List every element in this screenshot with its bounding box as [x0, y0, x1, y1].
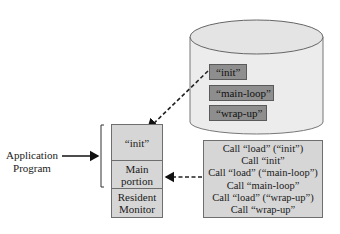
main-portion-line-2: portion — [121, 175, 153, 187]
application-label-line-1: Application — [4, 149, 60, 162]
main-portion-line-1: Main — [121, 163, 153, 175]
call-line: Call “load” (“main-loop”) — [204, 167, 322, 179]
memory-segment-resident-monitor: Resident Monitor — [111, 188, 163, 218]
disk-module-init: “init” — [209, 64, 247, 80]
disk-module-wrap-up: “wrap-up” — [209, 105, 267, 121]
call-line: Call “load” (“init”) — [204, 143, 322, 155]
resident-monitor-line-1: Resident — [118, 191, 157, 203]
disk-module-main-loop: “main-loop” — [209, 85, 274, 101]
application-label-line-2: Program — [4, 162, 60, 175]
disk-module-init-label: “init” — [216, 66, 240, 78]
call-sequence-box: Call “load” (“init”) Call “init” Call “l… — [203, 140, 323, 218]
call-line: Call “main-loop” — [204, 180, 322, 192]
call-line: Call “init” — [204, 155, 322, 167]
memory-segment-main-portion: Main portion — [111, 160, 163, 189]
resident-monitor-line-2: Monitor — [118, 203, 157, 215]
memory-segment-init: “init” — [111, 124, 163, 161]
disk-module-main-loop-label: “main-loop” — [216, 87, 271, 99]
application-program-label: Application Program — [4, 149, 60, 175]
disk-module-wrap-up-label: “wrap-up” — [216, 107, 262, 119]
call-line: Call “wrap-up” — [204, 204, 322, 216]
memory-segment-init-label: “init” — [125, 137, 149, 149]
application-bracket — [101, 125, 104, 187]
call-line: Call “load” (“wrap-up”) — [204, 192, 322, 204]
